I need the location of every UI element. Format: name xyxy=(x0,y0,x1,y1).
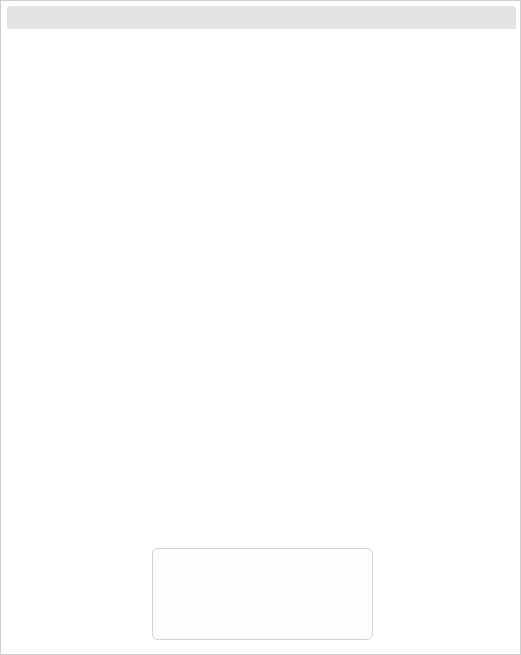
risk-chart-page xyxy=(0,0,521,655)
legend xyxy=(152,548,373,640)
chart-title-bar xyxy=(7,6,516,29)
